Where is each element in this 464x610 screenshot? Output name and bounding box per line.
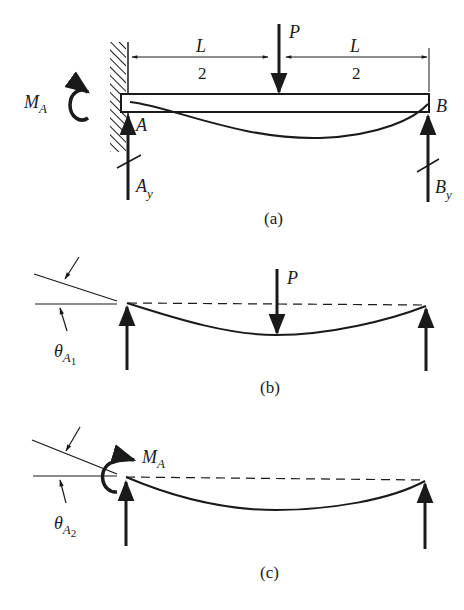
theta-label-a2: θA2	[54, 513, 76, 539]
support-label-a: A	[135, 115, 148, 135]
moment-label-ma: MA	[23, 92, 47, 116]
load-label-p: P	[286, 268, 298, 288]
caption-c: (c)	[260, 563, 279, 582]
slope-angle-indicator	[34, 257, 117, 331]
span-left-numerator: L	[195, 36, 206, 56]
span-right-denominator: 2	[352, 64, 361, 83]
support-label-b: B	[436, 96, 447, 116]
reaction-label-by: By	[435, 177, 452, 202]
theta-label-a1: θA1	[54, 341, 76, 367]
span-right-numerator: L	[349, 36, 360, 56]
load-label-p: P	[288, 22, 300, 42]
caption-b: (b)	[260, 378, 280, 397]
panel-a: L 2 L 2 P MA A B Ay By (a)	[23, 22, 452, 228]
panel-b: P θA1 (b)	[34, 257, 426, 397]
moment-arrow-ma	[70, 90, 88, 120]
undeflected-reference-line	[126, 477, 425, 480]
span-left-denominator: 2	[198, 64, 207, 83]
beam-superposition-figure: L 2 L 2 P MA A B Ay By (a)	[0, 0, 464, 610]
caption-a: (a)	[264, 209, 283, 228]
reaction-label-ay: Ay	[135, 176, 153, 201]
deflection-curve	[126, 477, 425, 510]
moment-label-ma: MA	[141, 447, 165, 471]
panel-c: MA θA2 (c)	[32, 427, 425, 582]
slope-angle-indicator	[32, 427, 117, 503]
